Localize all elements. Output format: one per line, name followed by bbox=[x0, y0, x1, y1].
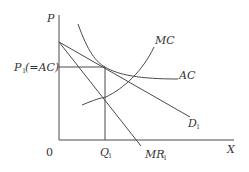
quantity-subscript: 1 bbox=[108, 152, 112, 160]
demand-subscript: 1 bbox=[196, 123, 200, 131]
origin-label: 0 bbox=[46, 146, 53, 159]
y-axis-label: P bbox=[46, 12, 55, 25]
average-cost-curve bbox=[78, 24, 178, 79]
mc-label: MC bbox=[154, 34, 175, 47]
mr-subscript: 1 bbox=[163, 154, 167, 162]
price-note: (=AC) bbox=[25, 61, 59, 74]
marginal-revenue-curve bbox=[59, 42, 141, 146]
mr-label: MR bbox=[144, 148, 165, 161]
demand-curve bbox=[59, 42, 190, 117]
x-axis-label: X bbox=[226, 143, 236, 156]
ac-label: AC bbox=[178, 69, 196, 82]
economics-diagram: P X 0 P 1 (=AC) Q 1 MC AC D 1 MR 1 bbox=[0, 0, 249, 172]
price-label: P bbox=[13, 61, 22, 74]
